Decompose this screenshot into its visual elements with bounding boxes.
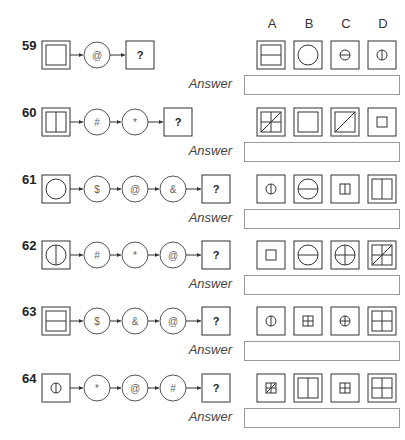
start-shape [42, 175, 70, 203]
option-b[interactable] [294, 374, 322, 402]
question-row-62: 62#*@?Answer [0, 240, 405, 310]
svg-text:*: * [95, 383, 99, 394]
operator-circle: @ [122, 375, 148, 401]
sequence-diagram: *@#? [0, 373, 405, 413]
option-c[interactable] [331, 108, 359, 136]
start-shape [42, 307, 70, 335]
answer-label: Answer [189, 342, 232, 357]
operator-circle: @ [160, 242, 186, 268]
answer-input[interactable] [244, 209, 400, 229]
operator-circle: @ [122, 176, 148, 202]
svg-text:?: ? [175, 116, 182, 128]
option-b[interactable] [294, 241, 322, 269]
operator-circle: & [122, 308, 148, 334]
sequence-diagram: $&@? [0, 306, 405, 346]
answer-input[interactable] [244, 408, 400, 428]
svg-text:?: ? [213, 315, 220, 327]
option-d[interactable] [368, 241, 396, 269]
svg-text:$: $ [94, 316, 100, 327]
answer-input[interactable] [244, 341, 400, 361]
svg-text:@: @ [168, 250, 178, 261]
option-a[interactable] [257, 241, 285, 269]
operator-circle: @ [160, 308, 186, 334]
sequence-diagram: @? [0, 40, 405, 80]
sequence-diagram: #*@? [0, 240, 405, 280]
option-d[interactable] [368, 374, 396, 402]
sequence-diagram: $@&? [0, 174, 405, 214]
answer-label: Answer [189, 143, 232, 158]
svg-text:&: & [132, 316, 139, 327]
svg-text:$: $ [94, 184, 100, 195]
answer-label: Answer [189, 76, 232, 91]
svg-text:@: @ [168, 316, 178, 327]
option-header-d: D [368, 16, 398, 31]
answer-input[interactable] [244, 275, 400, 295]
start-shape [42, 108, 70, 136]
question-row-60: 60#*?Answer [0, 107, 405, 177]
option-c[interactable] [331, 175, 359, 203]
svg-text:*: * [133, 117, 137, 128]
option-header-a: A [257, 16, 287, 31]
operator-circle: # [84, 242, 110, 268]
option-c[interactable] [331, 374, 359, 402]
start-shape [42, 241, 70, 269]
operator-circle: $ [84, 308, 110, 334]
option-a[interactable] [257, 41, 285, 69]
question-row-59: 59@?Answer [0, 40, 405, 110]
svg-text:@: @ [130, 184, 140, 195]
unknown-result-box: ? [202, 175, 230, 203]
operator-circle: # [160, 375, 186, 401]
operator-circle: * [122, 242, 148, 268]
sequence-diagram: #*? [0, 107, 405, 147]
question-row-64: 64*@#?Answer [0, 373, 405, 440]
answer-label: Answer [189, 210, 232, 225]
svg-text:?: ? [213, 382, 220, 394]
option-a[interactable] [257, 108, 285, 136]
start-shape [42, 41, 70, 69]
option-d[interactable] [368, 41, 396, 69]
option-header-c: C [331, 16, 361, 31]
answer-input[interactable] [244, 142, 400, 162]
question-row-61: 61$@&?Answer [0, 174, 405, 244]
option-c[interactable] [331, 241, 359, 269]
option-c[interactable] [331, 41, 359, 69]
svg-text:?: ? [213, 249, 220, 261]
answer-label: Answer [189, 409, 232, 424]
svg-text:#: # [170, 383, 176, 394]
operator-circle: $ [84, 176, 110, 202]
svg-text:&: & [170, 184, 177, 195]
option-header-b: B [294, 16, 324, 31]
svg-text:?: ? [137, 49, 144, 61]
answer-label: Answer [189, 276, 232, 291]
question-row-63: 63$&@?Answer [0, 306, 405, 376]
option-d[interactable] [368, 307, 396, 335]
unknown-result-box: ? [126, 41, 154, 69]
svg-text:#: # [94, 250, 100, 261]
operator-circle: & [160, 176, 186, 202]
unknown-result-box: ? [164, 108, 192, 136]
option-b[interactable] [294, 175, 322, 203]
answer-input[interactable] [244, 75, 400, 95]
svg-text:*: * [133, 250, 137, 261]
option-b[interactable] [294, 41, 322, 69]
option-a[interactable] [257, 307, 285, 335]
option-b[interactable] [294, 307, 322, 335]
option-a[interactable] [257, 374, 285, 402]
option-a[interactable] [257, 175, 285, 203]
unknown-result-box: ? [202, 374, 230, 402]
option-d[interactable] [368, 175, 396, 203]
svg-text:#: # [94, 117, 100, 128]
operator-circle: * [84, 375, 110, 401]
operator-circle: * [122, 109, 148, 135]
option-b[interactable] [294, 108, 322, 136]
unknown-result-box: ? [202, 307, 230, 335]
operator-circle: @ [84, 42, 110, 68]
option-c[interactable] [331, 307, 359, 335]
svg-text:@: @ [92, 50, 102, 61]
svg-text:@: @ [130, 383, 140, 394]
operator-circle: # [84, 109, 110, 135]
option-d[interactable] [368, 108, 396, 136]
svg-text:?: ? [213, 183, 220, 195]
unknown-result-box: ? [202, 241, 230, 269]
start-shape [42, 374, 70, 402]
